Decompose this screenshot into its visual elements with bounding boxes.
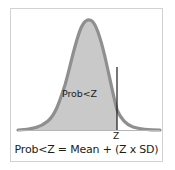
figure-root: Prob<Z Z Prob<Z = Mean + (Z x SD): [0, 0, 175, 170]
probability-area-label: Prob<Z: [62, 88, 97, 99]
formula-caption: Prob<Z = Mean + (Z x SD): [10, 143, 163, 156]
shaded-probability-area: [18, 20, 160, 131]
z-axis-point-label: Z: [113, 131, 119, 141]
